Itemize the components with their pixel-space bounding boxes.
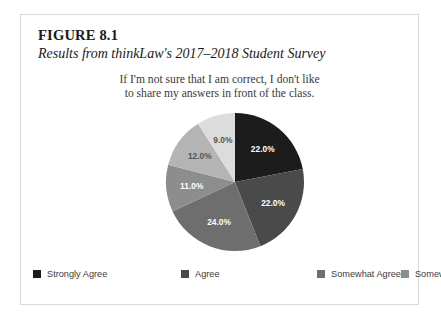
pie-slice-label: 11.0% (180, 181, 204, 191)
legend-item[interactable]: Somewhat Agree (317, 266, 401, 281)
chart-title-line-2: to share my answers in front of the clas… (21, 87, 418, 101)
legend-swatch-icon (33, 270, 41, 278)
figure-box: FIGURE 8.1 Results from thinkLaw's 2017–… (20, 14, 419, 305)
legend-item-label: Somewhat Disagree (415, 269, 441, 279)
pie-slice-label: 22.0% (251, 144, 275, 154)
figure-subtitle: Results from thinkLaw's 2017–2018 Studen… (38, 46, 326, 62)
legend-swatch-icon (317, 270, 325, 278)
legend-item[interactable]: Strongly Agree (33, 266, 181, 281)
chart-title: If I'm not sure that I am correct, I don… (21, 73, 418, 101)
pie-slice-label: 22.0% (261, 198, 285, 208)
figure-label: FIGURE 8.1 (38, 27, 118, 44)
pie-slice-label: 9.0% (213, 135, 233, 145)
legend-item-label: Somewhat Agree (331, 269, 401, 279)
legend-swatch-icon (401, 270, 409, 278)
chart-title-line-1: If I'm not sure that I am correct, I don… (21, 73, 418, 87)
pie-graphic: 22.0%22.0%24.0%11.0%12.0%9.0% (165, 112, 305, 252)
pie-svg: 22.0%22.0%24.0%11.0%12.0%9.0% (165, 112, 305, 252)
chart-legend: Strongly AgreeAgreeSomewhat AgreeSomewha… (33, 266, 413, 281)
legend-item-label: Agree (195, 269, 220, 279)
pie-chart: If I'm not sure that I am correct, I don… (21, 73, 418, 304)
legend-item[interactable]: Agree (181, 266, 317, 281)
legend-swatch-icon (181, 270, 189, 278)
legend-item-label: Strongly Agree (47, 269, 107, 279)
pie-slice-label: 12.0% (188, 151, 212, 161)
legend-item[interactable]: Somewhat Disagree (401, 266, 441, 281)
pie-slice-label: 24.0% (207, 217, 231, 227)
